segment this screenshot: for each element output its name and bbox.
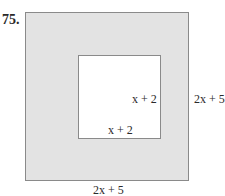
inner-square-bottom-label: x + 2 [108,124,133,136]
problem-number: 75. [2,13,20,27]
inner-square-right-label: x + 2 [132,93,157,105]
outer-square-right-label: 2x + 5 [194,93,225,105]
outer-square-bottom-label: 2x + 5 [93,184,124,196]
